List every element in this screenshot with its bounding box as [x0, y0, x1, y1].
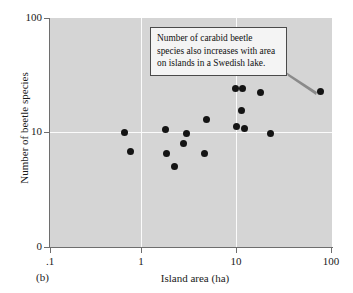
data-point: [121, 129, 128, 136]
callout-line-3: on islands in a Swedish lake.: [157, 57, 281, 70]
gridline-y-10: [50, 132, 332, 133]
x-axis-title: Island area (ha): [110, 272, 280, 284]
x-tick-1: [141, 247, 142, 253]
data-point: [171, 163, 178, 170]
data-point: [267, 130, 274, 137]
callout-annotation: Number of carabid beetle species also in…: [150, 27, 287, 76]
y-axis-title: Number of beetle species: [18, 43, 30, 213]
data-point: [232, 85, 239, 92]
data-point: [162, 126, 169, 133]
x-tick-10: [236, 247, 237, 253]
data-point: [239, 85, 246, 92]
x-tick-label-1: 1: [121, 256, 161, 267]
y-tick-label-0: 0: [2, 241, 42, 252]
y-tick-label-100: 100: [2, 12, 42, 23]
data-point: [317, 88, 324, 95]
data-point: [257, 89, 264, 96]
data-point: [241, 125, 248, 132]
callout-line-2: species also increases with area: [157, 45, 281, 58]
y-tick-10: [44, 132, 50, 133]
data-point: [201, 150, 208, 157]
x-axis-line: [49, 247, 333, 248]
figure-panel-b: 100 10 0 .1 1 10 100 Number of beetle sp…: [0, 0, 353, 293]
data-point: [233, 123, 240, 130]
data-point: [203, 116, 210, 123]
data-point: [238, 107, 245, 114]
x-tick-label-100: 100: [311, 256, 351, 267]
x-tick-label-0.1: .1: [30, 256, 70, 267]
x-tick-label-10: 10: [216, 256, 256, 267]
y-tick-100: [44, 18, 50, 19]
data-point: [163, 150, 170, 157]
data-point: [127, 148, 134, 155]
x-tick-0.1: [50, 247, 51, 253]
x-tick-100: [331, 247, 332, 253]
callout-line-1: Number of carabid beetle: [157, 32, 281, 45]
panel-label: (b): [36, 271, 49, 283]
data-point: [180, 140, 187, 147]
data-point: [183, 130, 190, 137]
